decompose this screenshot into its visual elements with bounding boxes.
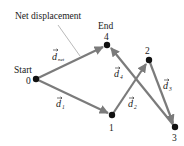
point-2-label: 2 <box>145 46 150 56</box>
vector-d1-arrow <box>36 79 108 113</box>
point-3-label: 3 <box>172 133 177 143</box>
vector-label-d-net: d net <box>52 49 65 62</box>
start-label: Start <box>14 65 32 75</box>
point-2-dot <box>146 57 152 63</box>
point-0-dot <box>33 76 39 82</box>
point-3-dot <box>172 124 178 130</box>
point-0-label: 0 <box>26 76 31 86</box>
vector-d-net-arrow <box>36 47 103 79</box>
svg-text:net: net <box>58 57 65 62</box>
vector-label-d2: d 2 <box>128 97 137 110</box>
svg-text:2: 2 <box>134 104 137 110</box>
vector-label-d4: d 4 <box>114 67 123 80</box>
svg-text:3: 3 <box>168 86 172 92</box>
point-4-label: 4 <box>104 32 109 42</box>
net-displacement-label: Net displacement <box>15 11 82 21</box>
end-label: End <box>98 21 114 31</box>
point-1-dot <box>109 112 115 118</box>
displacement-diagram: Net displacement End 4 Start 0 1 2 3 d n… <box>0 0 184 146</box>
point-1-label: 1 <box>109 123 114 133</box>
svg-text:1: 1 <box>62 104 65 110</box>
net-displacement-leader-line <box>58 25 80 56</box>
point-4-dot <box>104 42 110 48</box>
svg-text:4: 4 <box>120 74 123 80</box>
vector-label-d1: d 1 <box>56 97 65 110</box>
vector-label-d3: d 3 <box>163 79 172 92</box>
